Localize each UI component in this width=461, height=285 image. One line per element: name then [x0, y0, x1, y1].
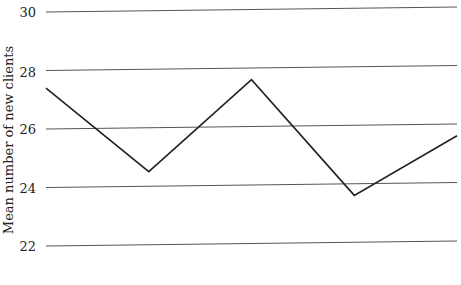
y-tick-28: 28 — [19, 65, 36, 80]
gridline-30 — [46, 7, 457, 12]
y-tick-24: 24 — [19, 181, 36, 196]
y-tick-26: 26 — [19, 122, 36, 137]
y-tick-22: 22 — [19, 239, 36, 254]
y-tick-30: 30 — [19, 5, 36, 20]
gridline-28 — [46, 66, 457, 71]
line-chart: 30 28 26 24 22 Mean number of new client… — [0, 0, 461, 285]
gridline-26 — [46, 124, 457, 129]
data-line — [46, 80, 457, 196]
gridline-22 — [46, 241, 457, 246]
gridline-24 — [46, 183, 457, 188]
y-axis-ticks: 30 28 26 24 22 — [19, 5, 36, 254]
gridlines — [46, 7, 457, 246]
y-axis-label: Mean number of new clients — [1, 46, 16, 234]
